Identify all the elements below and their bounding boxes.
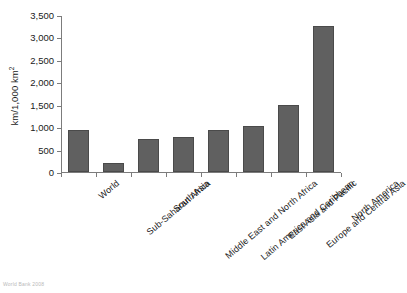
y-tick-label: 1,000 xyxy=(30,122,54,133)
bar xyxy=(103,163,124,172)
y-tick-label: 2,500 xyxy=(30,55,54,66)
y-tick-label: 3,500 xyxy=(30,10,54,21)
x-tick xyxy=(271,173,272,177)
source-note: World Bank 2008 xyxy=(3,281,44,287)
x-category-label: World xyxy=(96,178,121,201)
y-tick: 3,500 xyxy=(57,16,61,17)
bar xyxy=(243,126,264,172)
y-tick: 1,500 xyxy=(57,106,61,107)
y-axis-title: km/1,000 km2 xyxy=(8,48,22,144)
x-tick xyxy=(96,173,97,177)
y-tick: 1,000 xyxy=(57,128,61,129)
y-tick-label: 0 xyxy=(49,167,54,178)
bar xyxy=(173,137,194,172)
x-tick xyxy=(166,173,167,177)
y-axis-line xyxy=(61,16,62,173)
bar xyxy=(313,26,334,172)
x-tick xyxy=(131,173,132,177)
plot-area: 05001,0001,5002,0002,5003,0003,500 xyxy=(61,16,341,173)
bar xyxy=(138,139,159,172)
x-tick xyxy=(341,173,342,177)
x-category-label: South Asia xyxy=(171,178,211,214)
x-tick xyxy=(236,173,237,177)
y-tick: 3,000 xyxy=(57,38,61,39)
y-tick-label: 1,500 xyxy=(30,100,54,111)
y-axis-title-text: km/1,000 km xyxy=(9,70,20,125)
y-tick-label: 3,000 xyxy=(30,32,54,43)
x-tick xyxy=(201,173,202,177)
x-tick xyxy=(306,173,307,177)
bar xyxy=(278,105,299,172)
x-tick xyxy=(61,173,62,177)
y-tick-label: 500 xyxy=(38,145,54,156)
bar xyxy=(68,130,89,172)
y-tick: 500 xyxy=(57,151,61,152)
bar xyxy=(208,130,229,172)
y-tick-label: 2,000 xyxy=(30,77,54,88)
y-tick: 2,500 xyxy=(57,61,61,62)
y-tick: 2,000 xyxy=(57,83,61,84)
y-axis-title-superscript: 2 xyxy=(8,66,15,70)
